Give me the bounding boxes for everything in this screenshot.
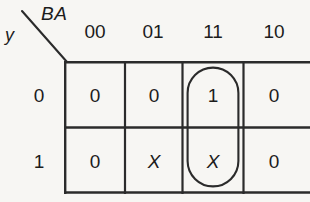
column-header-00: 00 [66,22,124,41]
row-variable-label: y [5,26,14,44]
column-header-01: 01 [124,22,182,41]
kmap-grid: 0 0 1 0 0 X X 0 [64,61,310,194]
cell-row1-col10: 0 [245,152,303,171]
cell-row0-col01: 0 [125,86,183,105]
row-header-1: 1 [22,152,56,171]
cell-row0-col00: 0 [66,86,124,105]
column-header-11: 11 [184,22,242,41]
cell-row1-col01: X [125,152,183,171]
karnaugh-map-figure: BA y 00 01 11 10 0 1 0 0 1 0 0 X X 0 [0,0,310,202]
row-header-0: 0 [22,86,56,105]
column-variable-label: BA [41,4,67,23]
cell-row0-col10: 0 [245,86,303,105]
column-header-10: 10 [245,22,303,41]
cell-row0-col11: 1 [184,86,242,105]
kmap-grid-lines [64,61,310,194]
cell-row1-col00: 0 [66,152,124,171]
cell-row1-col11: X [184,152,242,171]
